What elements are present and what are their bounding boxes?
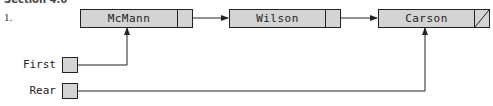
node-value: Wilson [230, 10, 325, 27]
first-arrow [70, 28, 127, 65]
node-carson-data: Carson [378, 9, 475, 28]
first-pointer-label: First [0, 57, 56, 73]
node-wilson-next-cell [325, 9, 341, 28]
node-value: McMann [81, 10, 177, 27]
node-value: Carson [379, 10, 474, 27]
node-carson-null-cell [474, 9, 490, 28]
rear-arrow [70, 28, 425, 91]
node-wilson-data: Wilson [229, 9, 326, 28]
first-pointer-cell [62, 57, 78, 73]
node-mcmann-data: McMann [80, 9, 178, 28]
node-mcmann-next-cell [177, 9, 193, 28]
rear-pointer-label: Rear [0, 83, 56, 99]
null-slash-icon [474, 9, 490, 28]
rear-pointer-cell [62, 83, 78, 99]
